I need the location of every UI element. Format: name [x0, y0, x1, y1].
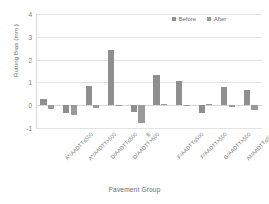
bar-after-5 [161, 104, 167, 105]
legend-swatch-before [172, 17, 176, 21]
y-tick-label-0: 0 [28, 102, 32, 109]
y-tick-label--1: -1 [26, 125, 32, 132]
y-axis-line [36, 14, 37, 128]
y-tick-label-2: 2 [28, 56, 32, 63]
gridline-4 [36, 14, 262, 15]
bar-after-7 [206, 104, 212, 105]
gridline-1 [36, 82, 262, 83]
legend-label-before: Before [179, 16, 197, 22]
bar-after-1 [71, 105, 77, 115]
bar-after-0 [48, 105, 54, 109]
bar-before-1 [63, 105, 69, 113]
legend-swatch-after [207, 17, 211, 21]
gridline-3 [36, 37, 262, 38]
y-tick-label-3: 3 [28, 33, 32, 40]
bar-after-2 [93, 105, 99, 108]
y-axis-title: Rutting Bias (mm ) [12, 5, 19, 97]
bar-before-0 [40, 99, 46, 105]
bar-before-9 [244, 90, 250, 105]
gridline--1 [36, 128, 262, 129]
x-axis-title: Pavement Group [0, 186, 269, 193]
bar-before-7 [199, 105, 205, 113]
bar-before-2 [86, 86, 92, 105]
legend-item-before: Before [172, 16, 196, 22]
rutting-bias-bar-chart: Rutting Bias (mm ) 43210-1 Before After … [0, 0, 269, 204]
bar-after-8 [229, 105, 235, 107]
bar-before-4 [131, 105, 137, 112]
legend-item-after: After [207, 16, 226, 22]
gridline-2 [36, 60, 262, 61]
bar-after-6 [184, 105, 190, 106]
bar-after-4 [138, 105, 144, 123]
y-tick-label-4: 4 [28, 11, 32, 18]
legend-label-after: After [214, 16, 227, 22]
bar-after-3 [116, 105, 122, 106]
bar-before-8 [221, 87, 227, 105]
y-tick-label-1: 1 [28, 79, 32, 86]
bar-before-3 [108, 50, 114, 105]
plot-area: 43210-1 [36, 14, 262, 128]
bar-after-9 [251, 105, 257, 109]
bar-before-5 [153, 75, 159, 105]
bar-before-6 [176, 81, 182, 106]
chart-legend: Before After [172, 16, 226, 22]
